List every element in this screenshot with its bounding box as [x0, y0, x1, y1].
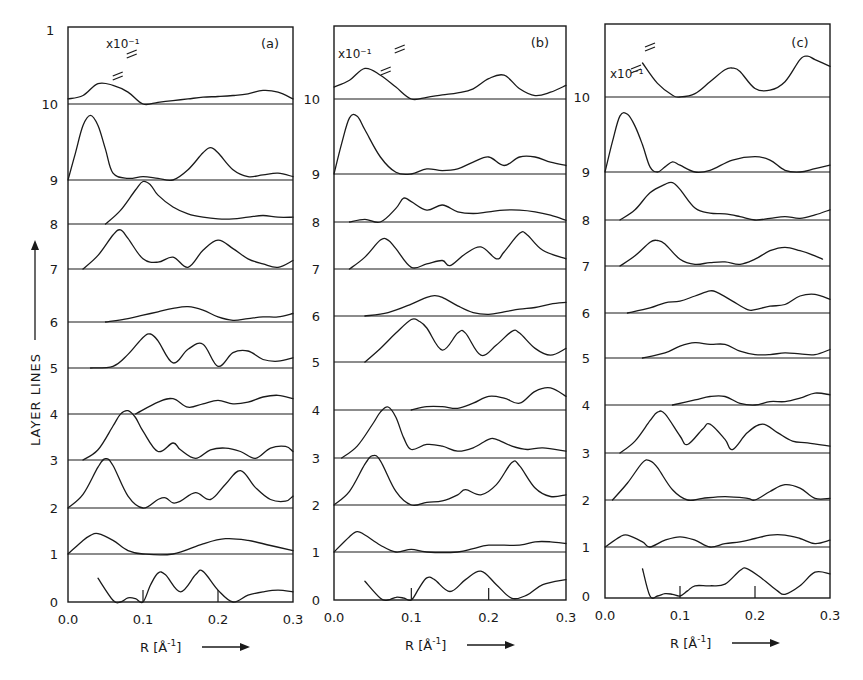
- y-tick-label: 3: [312, 451, 320, 466]
- y-tick-label: 9: [582, 165, 590, 180]
- axis-break-mark: [645, 47, 655, 51]
- layer-profile-curve: [643, 343, 831, 358]
- layer-profile-curve: [68, 115, 293, 180]
- layer-profile-curve: [365, 296, 566, 316]
- y-tick-label: 9: [312, 167, 320, 182]
- layer-profile-curve: [68, 459, 293, 508]
- layer-profile-curve: [365, 319, 566, 362]
- y-tick-label: 6: [50, 315, 58, 330]
- x-tick-label: 0.1: [670, 608, 691, 623]
- layer-profile-curve: [628, 291, 831, 313]
- y-tick-label: 7: [50, 262, 58, 277]
- x-tick-label: 0.0: [324, 610, 345, 625]
- panel-b: 0123456789100.00.10.20.3R [Å-1](b)x10⁻¹: [303, 26, 576, 653]
- x-tick-label: 0.0: [595, 608, 616, 623]
- x-tick-label: 0.1: [133, 612, 154, 627]
- layer-profile-curve: [620, 182, 830, 220]
- axis-break-mark: [381, 67, 391, 71]
- x-tick-label: 0.3: [283, 612, 304, 627]
- panel-label: (b): [531, 35, 549, 50]
- layer-profile-curve: [91, 334, 294, 368]
- layer-profile-curve: [620, 240, 823, 266]
- layer-profile-curve: [643, 568, 831, 598]
- x-axis-arrow-head-icon: [505, 641, 515, 649]
- y-tick-label: 10: [573, 90, 590, 105]
- x-tick-label: 0.1: [401, 610, 422, 625]
- axis-break-mark: [395, 49, 405, 53]
- axis-break-mark: [381, 71, 391, 75]
- x-axis-title: R [Å-1]: [405, 636, 446, 653]
- layer-profile-curve: [342, 407, 566, 458]
- y-tick-label: 5: [50, 361, 58, 376]
- layer-profile-curve: [605, 535, 830, 547]
- panel-a: 0123456789100.00.10.20.3R [Å-1](a)x10⁻¹: [41, 27, 303, 655]
- y-tick-label: 5: [582, 351, 590, 366]
- layer-profile-curve: [334, 114, 566, 174]
- y-tick-label: 10: [303, 92, 320, 107]
- x-tick-label: 0.2: [745, 608, 766, 623]
- layer-profile-curve: [350, 232, 567, 269]
- y-tick-label: 4: [582, 398, 590, 413]
- layer-profile-curve: [136, 395, 294, 414]
- layer-profile-curve: [68, 83, 293, 105]
- x-axis-title: R [Å-1]: [140, 638, 181, 655]
- axis-break-mark: [113, 76, 123, 80]
- layer-profile-curve: [106, 181, 294, 224]
- layer-profile-curve: [334, 455, 566, 505]
- x-axis-arrow-head-icon: [240, 643, 250, 651]
- layer-profile-curve: [643, 56, 831, 97]
- y-tick-label: 6: [582, 306, 590, 321]
- y-tick-label: 2: [312, 498, 320, 513]
- panel-c: 0123456789100.00.10.20.3R [Å-1](c)x10⁻¹: [573, 24, 840, 651]
- x-tick-label: 0.2: [478, 610, 499, 625]
- y-tick-label: 9: [50, 173, 58, 188]
- layer-profile-curve: [334, 68, 566, 99]
- x-tick-label: 0.2: [208, 612, 229, 627]
- layer-profile-curve: [620, 411, 830, 453]
- layer-profile-curve: [365, 571, 566, 601]
- y-tick-label: 2: [50, 501, 58, 516]
- layer-profile-curve: [613, 460, 831, 501]
- y-tick-label: 8: [312, 215, 320, 230]
- x-axis-title: R [Å-1]: [670, 634, 711, 651]
- layer-profile-curve: [68, 533, 293, 555]
- y-tick-label: 8: [50, 217, 58, 232]
- x-tick-label: 0.0: [58, 612, 79, 627]
- y-tick-label: 3: [582, 446, 590, 461]
- y-tick-label: 0: [50, 595, 58, 610]
- y-axis-title-text: LAYER LINES: [28, 353, 43, 446]
- axis-break-mark: [113, 72, 123, 76]
- y-tick-label: 5: [312, 355, 320, 370]
- layer-profile-curve: [106, 307, 294, 322]
- panel-label: (c): [791, 35, 808, 50]
- y-tick-label: 8: [582, 213, 590, 228]
- y-tick-label: 0: [582, 589, 590, 604]
- layer-profile-curve: [98, 570, 293, 603]
- y-tick-label: 1: [312, 545, 320, 560]
- top-corner-label: 1: [46, 23, 54, 38]
- scale-annotation: x10⁻¹: [338, 47, 372, 61]
- y-tick-label: 6: [312, 309, 320, 324]
- layer-line-figure: 1 LAYER LINES 0123456789100.00.10.20.3R …: [0, 0, 863, 680]
- layer-profile-curve: [334, 532, 566, 553]
- layer-profile-curve: [673, 393, 831, 405]
- x-tick-label: 0.3: [820, 608, 841, 623]
- axis-break-mark: [395, 45, 405, 49]
- y-tick-label: 4: [312, 403, 320, 418]
- layer-profile-curve: [411, 388, 566, 410]
- y-axis-title: LAYER LINES: [28, 240, 43, 446]
- layer-profile-curve: [83, 411, 293, 460]
- y-tick-label: 3: [50, 453, 58, 468]
- y-tick-label: 7: [312, 262, 320, 277]
- panel-label: (a): [261, 36, 279, 51]
- plot-frame: [334, 26, 566, 600]
- layer-profile-curve: [605, 113, 830, 173]
- scale-annotation: x10⁻¹: [610, 67, 644, 81]
- y-tick-label: 7: [582, 259, 590, 274]
- y-tick-label: 2: [582, 493, 590, 508]
- plot-frame: [68, 27, 293, 602]
- y-tick-label: 10: [41, 97, 58, 112]
- y-axis-arrow-head-icon: [31, 240, 39, 250]
- y-tick-label: 4: [50, 407, 58, 422]
- axis-break-mark: [645, 43, 655, 47]
